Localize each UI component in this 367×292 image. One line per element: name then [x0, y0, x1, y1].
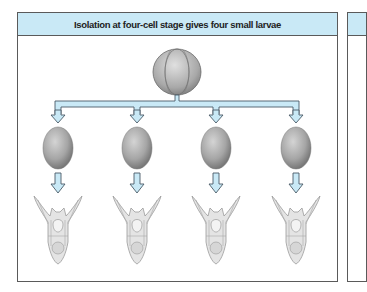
arrow-down-icon — [289, 173, 303, 193]
arrow-down-icon — [130, 173, 144, 193]
lower-arrows — [51, 173, 303, 193]
larva-3 — [192, 196, 240, 264]
larva-4 — [272, 196, 320, 264]
blastomere-2 — [122, 127, 152, 169]
larva-2 — [113, 196, 161, 264]
arrow-down-icon — [130, 110, 144, 123]
blastomere-4 — [281, 127, 311, 169]
arrow-down-icon — [209, 173, 223, 193]
larva-1 — [34, 196, 82, 264]
blastomere-3 — [201, 127, 231, 169]
small-larvae — [34, 196, 320, 264]
branch-connector — [51, 95, 303, 123]
arrow-down-icon — [51, 110, 65, 123]
arrow-down-icon — [209, 110, 223, 123]
arrow-down-icon — [51, 173, 65, 193]
four-cell-embryo — [153, 49, 201, 95]
arrow-down-icon — [289, 110, 303, 123]
blastomere-1 — [43, 127, 73, 169]
isolated-blastomeres — [43, 127, 311, 169]
